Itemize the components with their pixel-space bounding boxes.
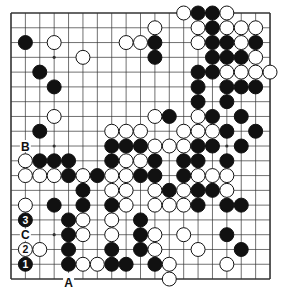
black-stone xyxy=(220,124,234,138)
white-stone xyxy=(205,169,219,183)
move-number-label: 2 xyxy=(22,243,28,255)
move-number-label: 3 xyxy=(22,214,28,226)
white-stone xyxy=(105,228,119,242)
white-stone xyxy=(33,242,47,256)
white-stone xyxy=(220,6,234,20)
white-stone xyxy=(47,36,61,50)
white-stone xyxy=(76,228,90,242)
black-stone xyxy=(191,154,205,168)
black-stone xyxy=(134,169,148,183)
black-stone xyxy=(148,154,162,168)
black-stone xyxy=(205,65,219,79)
white-stone xyxy=(234,65,248,79)
white-stone xyxy=(249,65,263,79)
black-stone xyxy=(105,198,119,212)
black-stone xyxy=(134,228,148,242)
white-stone xyxy=(191,36,205,50)
white-stone xyxy=(18,198,32,212)
white-stone xyxy=(191,124,205,138)
black-stone xyxy=(62,228,76,242)
white-stone xyxy=(76,169,90,183)
black-stone xyxy=(234,109,248,123)
black-stone xyxy=(220,50,234,64)
white-stone xyxy=(191,169,205,183)
black-stone xyxy=(191,80,205,94)
white-stone xyxy=(177,124,191,138)
black-stone xyxy=(62,257,76,271)
black-stone xyxy=(105,139,119,153)
white-stone xyxy=(119,36,133,50)
black-stone xyxy=(205,50,219,64)
white-stone xyxy=(148,139,162,153)
black-stone xyxy=(62,242,76,256)
white-stone xyxy=(47,169,61,183)
star-point xyxy=(53,233,56,236)
white-stone xyxy=(119,124,133,138)
go-board: 123ABC xyxy=(0,0,281,291)
black-stone xyxy=(119,139,133,153)
black-stone xyxy=(162,183,176,197)
white-stone xyxy=(33,169,47,183)
black-stone xyxy=(18,36,32,50)
white-stone xyxy=(162,139,176,153)
black-stone xyxy=(249,124,263,138)
star-point xyxy=(225,144,228,147)
white-stone xyxy=(220,257,234,271)
white-stone xyxy=(234,21,248,35)
white-stone xyxy=(162,198,176,212)
black-stone xyxy=(191,198,205,212)
point-letter-label: A xyxy=(64,276,73,290)
black-stone xyxy=(205,139,219,153)
white-stone xyxy=(177,228,191,242)
white-stone xyxy=(148,21,162,35)
black-stone xyxy=(105,154,119,168)
black-stone xyxy=(220,154,234,168)
black-stone xyxy=(33,124,47,138)
black-stone xyxy=(62,169,76,183)
black-stone xyxy=(234,242,248,256)
black-stone xyxy=(234,80,248,94)
black-stone xyxy=(76,183,90,197)
black-stone xyxy=(234,198,248,212)
white-stone xyxy=(249,50,263,64)
black-stone xyxy=(249,80,263,94)
white-stone xyxy=(119,154,133,168)
black-stone xyxy=(220,36,234,50)
white-stone xyxy=(90,257,104,271)
black-stone xyxy=(234,50,248,64)
white-stone xyxy=(148,228,162,242)
black-stone xyxy=(191,65,205,79)
black-stone xyxy=(33,65,47,79)
white-stone xyxy=(220,21,234,35)
black-stone xyxy=(205,36,219,50)
white-stone xyxy=(191,109,205,123)
white-stone xyxy=(76,213,90,227)
white-stone xyxy=(148,242,162,256)
star-point xyxy=(53,56,56,59)
black-stone xyxy=(148,169,162,183)
white-stone xyxy=(220,183,234,197)
white-stone xyxy=(105,183,119,197)
white-stone xyxy=(148,109,162,123)
white-stone xyxy=(177,139,191,153)
white-stone xyxy=(105,124,119,138)
black-stone xyxy=(249,36,263,50)
white-stone xyxy=(119,169,133,183)
white-stone xyxy=(18,154,32,168)
black-stone xyxy=(234,139,248,153)
white-stone xyxy=(220,169,234,183)
black-stone xyxy=(47,154,61,168)
black-stone xyxy=(134,242,148,256)
white-stone xyxy=(119,198,133,212)
point-letter-label: C xyxy=(21,228,30,242)
black-stone xyxy=(134,213,148,227)
white-stone xyxy=(249,21,263,35)
white-stone xyxy=(76,257,90,271)
white-stone xyxy=(148,198,162,212)
white-stone xyxy=(191,21,205,35)
black-stone xyxy=(220,95,234,109)
black-stone xyxy=(148,257,162,271)
black-stone xyxy=(162,109,176,123)
white-stone xyxy=(191,242,205,256)
white-stone xyxy=(148,183,162,197)
